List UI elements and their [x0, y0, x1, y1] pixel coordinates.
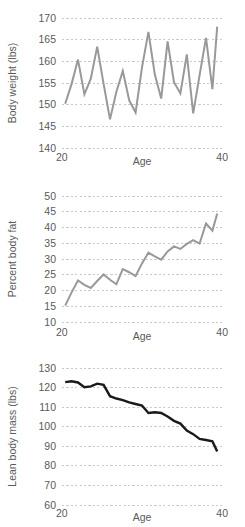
y-axis-tick-label: 110 [39, 401, 56, 413]
y-axis-tick-label: 15 [44, 300, 56, 312]
chart-panel-percent-body-fat: 1015202530354045502040AgePercent body fa… [0, 178, 245, 353]
x-axis-tick-label: 20 [56, 507, 68, 519]
stacked-line-charts-figure: 1401451501551601651702040AgeBody weight … [0, 0, 245, 527]
y-axis-tick-label: 10 [44, 316, 56, 328]
y-axis-tick-label: 145 [38, 120, 56, 132]
x-axis-tick-label: 40 [216, 507, 228, 519]
data-series-line [65, 27, 217, 120]
y-axis-tick-label: 45 [44, 205, 56, 217]
y-axis-tick-label: 120 [38, 381, 56, 393]
y-axis-tick-label: 80 [44, 459, 56, 471]
x-axis-tick-label: 20 [56, 326, 68, 338]
chart-panel-lean-body-mass: 607080901001101201302040AgeLean body mas… [0, 353, 245, 527]
x-axis-title: Age [133, 155, 152, 167]
y-axis-tick-label: 130 [38, 362, 56, 374]
data-series-line [65, 381, 217, 451]
percent-body-fat-chart-svg: 1015202530354045502040AgePercent body fa… [0, 178, 245, 353]
y-axis-tick-label: 90 [44, 440, 56, 452]
y-axis-tick-label: 20 [44, 284, 56, 296]
y-axis-tick-label: 165 [38, 33, 56, 45]
y-axis-tick-label: 155 [38, 77, 56, 89]
y-axis-tick-label: 50 [44, 190, 56, 202]
x-axis-title: Age [133, 511, 152, 523]
y-axis-tick-label: 70 [44, 479, 56, 491]
y-axis-tick-label: 60 [44, 499, 56, 511]
y-axis-title: Body weight (lbs) [6, 43, 18, 124]
y-axis-tick-label: 40 [44, 221, 56, 233]
lean-body-mass-chart-svg: 607080901001101201302040AgeLean body mas… [0, 353, 245, 527]
x-axis-tick-label: 20 [56, 151, 68, 163]
y-axis-tick-label: 140 [38, 142, 56, 154]
x-axis-title: Age [133, 330, 152, 342]
y-axis-title: Lean body mass (lbs) [6, 386, 18, 486]
y-axis-tick-label: 100 [38, 420, 56, 432]
chart-panel-body-weight: 1401451501551601651702040AgeBody weight … [0, 0, 245, 178]
y-axis-tick-label: 35 [44, 237, 56, 249]
y-axis-tick-label: 150 [38, 98, 56, 110]
body-weight-chart-svg: 1401451501551601651702040AgeBody weight … [0, 0, 245, 178]
x-axis-tick-label: 40 [216, 151, 228, 163]
y-axis-title: Percent body fat [6, 221, 18, 298]
y-axis-tick-label: 25 [44, 268, 56, 280]
y-axis-tick-label: 30 [44, 253, 56, 265]
y-axis-tick-label: 170 [38, 12, 56, 24]
x-axis-tick-label: 40 [216, 326, 228, 338]
y-axis-tick-label: 160 [38, 55, 56, 67]
